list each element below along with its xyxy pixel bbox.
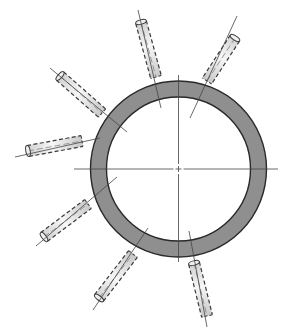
pin-body: [202, 33, 240, 84]
pin-bottom-left: [93, 228, 148, 310]
pin-fill: [202, 35, 239, 84]
pin-body: [188, 260, 212, 318]
pin-axis-line: [93, 228, 148, 310]
ring-with-pins-diagram: Ring cross-section with seven radial cyl…: [0, 0, 286, 332]
diagram-canvas: [0, 0, 286, 332]
pins-group: [15, 10, 241, 327]
pin-body: [25, 136, 83, 157]
pin-body: [135, 18, 161, 78]
pin-body: [55, 70, 106, 117]
pin-axis-line: [50, 68, 127, 132]
pin-upper-left: [50, 68, 127, 132]
pin-left: [15, 136, 100, 157]
